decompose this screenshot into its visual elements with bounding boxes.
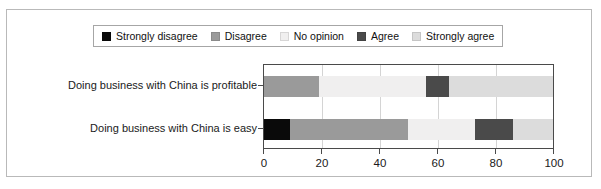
xtick-label-20: 20 <box>316 158 329 170</box>
chart-figure: Strongly disagree Disagree No opinion Ag… <box>6 9 592 177</box>
bar-segment-easy-disagree <box>290 119 408 140</box>
plot-area <box>263 64 554 149</box>
xtick-mark-100 <box>553 149 554 154</box>
xtick-label-0: 0 <box>261 158 267 170</box>
xtick-label-40: 40 <box>374 158 387 170</box>
xtick-label-100: 100 <box>544 158 563 170</box>
category-label-profitable: Doing business with China is profitable <box>68 80 257 91</box>
category-label-easy: Doing business with China is easy <box>90 123 257 134</box>
xtick-mark-60 <box>437 149 438 154</box>
xtick-label-80: 80 <box>490 158 503 170</box>
xtick-mark-0 <box>263 149 264 154</box>
xtick-label-60: 60 <box>432 158 445 170</box>
bar-segment-profitable-no-opinion <box>319 76 426 97</box>
plot-wrapper: Doing business with China is profitable … <box>7 10 593 178</box>
bar-segment-easy-no-opinion <box>408 119 474 140</box>
bar-segment-easy-agree <box>475 119 513 140</box>
xtick-mark-20 <box>321 149 322 154</box>
xtick-mark-80 <box>495 149 496 154</box>
xtick-mark-40 <box>379 149 380 154</box>
bar-segment-easy-strongly-disagree <box>264 119 290 140</box>
bar-segment-profitable-strongly-agree <box>449 76 553 97</box>
bar-segment-easy-strongly-agree <box>513 119 553 140</box>
bar-row-profitable <box>264 76 553 97</box>
bar-row-easy <box>264 119 553 140</box>
bar-segment-profitable-agree <box>426 76 449 97</box>
bar-segment-profitable-disagree <box>264 76 319 97</box>
